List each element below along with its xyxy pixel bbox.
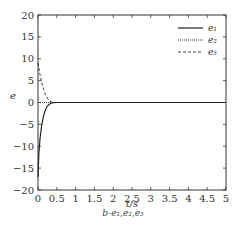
x-tick-label: 0 <box>35 193 41 204</box>
y-tick-label: 0 <box>28 97 34 108</box>
y-tick-label: −5 <box>19 119 34 130</box>
y-tick-label: 5 <box>28 75 34 86</box>
y-tick-label: 20 <box>21 10 34 21</box>
x-tick-label: 2 <box>110 193 116 204</box>
y-tick-label: −20 <box>13 185 34 196</box>
x-tick-label: 1.5 <box>86 193 102 204</box>
y-tick-label: 10 <box>21 53 34 64</box>
series-e3 <box>38 63 226 102</box>
x-tick-label: 3 <box>148 193 154 204</box>
x-tick-label: 4 <box>185 193 191 204</box>
line-chart: 00.511.522.533.544.5520151050−5−10−15−20… <box>0 0 246 228</box>
x-tick-label: 0.5 <box>49 193 65 204</box>
y-tick-label: 15 <box>21 31 34 42</box>
legend-label-e1: e₁ <box>208 23 217 33</box>
figure-caption: b-e₁,e₂,e₃ <box>0 208 246 218</box>
x-tick-label: 3.5 <box>162 193 178 204</box>
legend-label-e2: e₂ <box>208 35 217 45</box>
axis-ticks: 00.511.522.533.544.5520151050−5−10−15−20 <box>13 10 229 205</box>
x-tick-label: 5 <box>223 193 229 204</box>
y-axis-label: e <box>10 90 16 101</box>
y-tick-label: −15 <box>13 163 34 174</box>
x-tick-label: 4.5 <box>199 193 215 204</box>
x-tick-label: 1 <box>72 193 78 204</box>
series-lines <box>38 63 226 177</box>
legend-label-e3: e₃ <box>208 47 217 57</box>
legend: e₁e₂e₃ <box>178 23 217 57</box>
series-e1 <box>38 103 226 177</box>
y-tick-label: −10 <box>13 141 34 152</box>
